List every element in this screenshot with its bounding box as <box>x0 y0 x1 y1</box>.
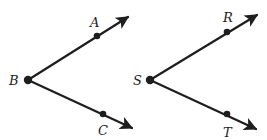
label-b: B <box>8 73 19 88</box>
label-r: R <box>222 10 233 25</box>
label-a: A <box>89 15 99 30</box>
angle-rst: R S T <box>133 10 257 140</box>
ray-st <box>150 80 256 129</box>
label-t: T <box>223 125 233 140</box>
ray-bc <box>28 80 132 128</box>
point-t <box>224 111 231 118</box>
point-c <box>100 111 107 118</box>
point-a <box>94 33 101 40</box>
label-s: S <box>133 73 142 88</box>
label-c: C <box>98 123 108 138</box>
vertex-b-point <box>24 76 32 84</box>
ray-sr <box>150 15 257 80</box>
angle-diagram: A B C R S T <box>0 0 267 140</box>
vertex-s-point <box>146 76 154 84</box>
ray-ba <box>28 17 128 80</box>
point-r <box>224 29 231 36</box>
angle-abc: A B C <box>8 15 132 138</box>
